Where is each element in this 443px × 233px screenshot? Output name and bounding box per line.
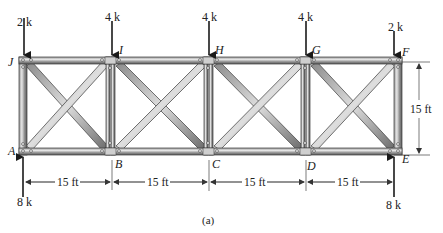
- joint-label-b: B: [115, 158, 122, 170]
- joint-label-c: C: [212, 158, 220, 170]
- dimension-label-de: 15 ft: [335, 176, 360, 188]
- joint-label-d: D: [307, 160, 316, 172]
- joint-label-e: E: [402, 153, 409, 165]
- load-label-f: 2 k: [388, 21, 403, 33]
- reaction-label-a: 8 k: [17, 196, 32, 208]
- reaction-label-e: 8 k: [386, 199, 401, 211]
- figure-caption: (a): [202, 214, 214, 226]
- dimension-label-height: 15 ft: [408, 103, 433, 115]
- load-label-g: 4 k: [298, 11, 313, 23]
- joint-label-g: G: [312, 44, 321, 56]
- dimension-label-ab: 15 ft: [55, 176, 80, 188]
- dimension-label-bc: 15 ft: [145, 176, 170, 188]
- load-label-j: 2 k: [17, 16, 32, 28]
- load-label-i: 4 k: [105, 11, 120, 23]
- joint-label-h: H: [215, 44, 224, 56]
- joint-label-a: A: [8, 145, 15, 157]
- dimension-label-cd: 15 ft: [242, 176, 267, 188]
- joint-label-j: J: [8, 56, 13, 68]
- load-label-h: 4 k: [202, 11, 217, 23]
- truss-diagram: [0, 0, 443, 233]
- joint-label-f: F: [402, 46, 409, 58]
- vertical-members: [19, 57, 402, 155]
- joint-label-i: I: [119, 44, 123, 56]
